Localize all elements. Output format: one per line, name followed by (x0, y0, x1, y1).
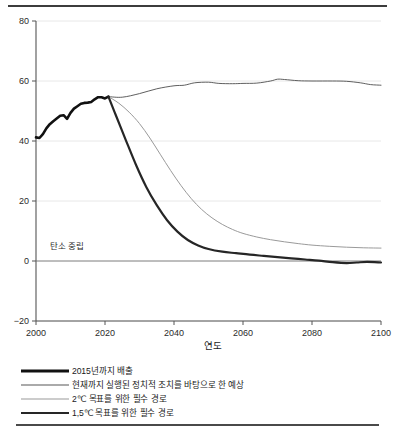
legend-item[interactable]: 2℃ 목표를 위한 필수 경로 (18, 392, 378, 406)
x-tick-label: 2060 (233, 328, 253, 338)
legend-line-swatch (18, 365, 72, 377)
y-tick-label: 60 (19, 76, 29, 86)
y-tick-label: −20 (14, 316, 29, 326)
axis-tick-labels: 806040200−20200020202040206020802100 (14, 16, 391, 338)
legend-item-label: 현재까지 실행된 정치적 조치를 바탕으로 한 예상 (72, 379, 244, 391)
annotation-label: 탄소 중립 (50, 241, 84, 251)
chart-figure: 806040200−20200020202040206020802100 탄소 … (0, 0, 395, 441)
series-lines (36, 79, 381, 263)
series-line (108, 97, 381, 249)
legend-line-swatch (18, 379, 72, 391)
legend-line-swatch (18, 393, 72, 405)
y-tick-label: 40 (19, 136, 29, 146)
chart-annotations: 탄소 중립 (50, 241, 84, 251)
x-axis-title: 연도 (204, 340, 222, 351)
x-axis (36, 321, 381, 325)
y-tick-label: 0 (24, 256, 29, 266)
x-tick-label: 2000 (26, 328, 46, 338)
bottom-divider-rule (16, 424, 379, 426)
legend-item-label: 2℃ 목표를 위한 필수 경로 (72, 393, 166, 405)
gridlines (36, 21, 381, 321)
plot-area: 806040200−20200020202040206020802100 탄소 … (0, 10, 395, 355)
x-tick-label: 2100 (371, 328, 391, 338)
y-axis (32, 21, 36, 321)
chart-legend: 2015년까지 배출현재까지 실행된 정치적 조치를 바탕으로 한 예상2℃ 목… (18, 364, 378, 420)
legend-item[interactable]: 1,5℃ 목표를 위한 필수 경로 (18, 406, 378, 420)
series-line (36, 97, 108, 138)
legend-item-label: 1,5℃ 목표를 위한 필수 경로 (72, 407, 173, 419)
series-line (108, 97, 381, 264)
x-tick-label: 2040 (164, 328, 184, 338)
series-line (108, 79, 381, 97)
legend-item-label: 2015년까지 배출 (72, 365, 133, 377)
legend-item[interactable]: 현재까지 실행된 정치적 조치를 바탕으로 한 예상 (18, 378, 378, 392)
x-tick-label: 2080 (302, 328, 322, 338)
emissions-line-chart: 806040200−20200020202040206020802100 탄소 … (0, 10, 395, 355)
x-tick-label: 2020 (95, 328, 115, 338)
y-tick-label: 80 (19, 16, 29, 26)
legend-line-swatch (18, 407, 72, 419)
top-divider-rule (8, 5, 387, 7)
y-tick-label: 20 (19, 196, 29, 206)
legend-item[interactable]: 2015년까지 배출 (18, 364, 378, 378)
